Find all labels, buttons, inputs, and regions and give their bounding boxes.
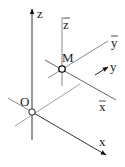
coordinate-diagram: z x y O M z y x <box>0 0 125 167</box>
diagram-svg: z x y O M z y x <box>0 0 125 167</box>
label-y: y <box>110 59 117 74</box>
label-y-bar: y <box>111 35 118 50</box>
label-m: M <box>62 50 74 65</box>
origin-point <box>29 109 35 115</box>
label-x: x <box>99 134 106 149</box>
label-z: z <box>37 6 43 21</box>
y-axis-arrow <box>95 67 108 75</box>
m-point <box>59 66 65 72</box>
x-bar-axis <box>45 60 116 100</box>
label-origin: O <box>20 94 29 109</box>
label-z-bar: z <box>63 17 69 32</box>
x-axis <box>32 112 106 155</box>
